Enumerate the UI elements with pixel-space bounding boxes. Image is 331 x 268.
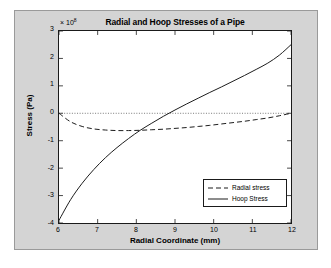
y-axis-label: Stress (Pa) (25, 71, 34, 161)
x-tick-label: 12 (285, 226, 299, 233)
x-tick-label: 11 (246, 226, 260, 233)
plot-area: Radial stress Hoop Stress (58, 30, 292, 224)
legend-swatch-dashed (207, 184, 229, 192)
x-axis-label: Radial Coordinate (mm) (58, 236, 292, 245)
legend[interactable]: Radial stress Hoop Stress (203, 179, 287, 207)
y-tick-label: -1 (40, 136, 54, 143)
figure-window: × 108 Radial and Hoop Stresses of a Pipe… (14, 10, 318, 250)
legend-label-hoop-stress: Hoop Stress (232, 195, 268, 202)
chart-title: Radial and Hoop Stresses of a Pipe (58, 17, 292, 27)
x-tick-label: 10 (207, 226, 221, 233)
y-tick-label: -2 (40, 164, 54, 171)
y-tick-label: -3 (40, 191, 54, 198)
legend-item-hoop-stress[interactable]: Hoop Stress (207, 193, 283, 204)
x-tick-label: 6 (51, 226, 65, 233)
x-tick-label: 9 (168, 226, 182, 233)
y-tick-label: 0 (40, 108, 54, 115)
x-tick-label: 7 (90, 226, 104, 233)
y-tick-label: 2 (40, 53, 54, 60)
legend-swatch-solid (207, 195, 229, 203)
y-tick-label: -4 (40, 219, 54, 226)
legend-item-radial-stress[interactable]: Radial stress (207, 182, 283, 193)
legend-label-radial-stress: Radial stress (232, 184, 270, 191)
y-tick-label: 1 (40, 80, 54, 87)
y-tick-label: 3 (40, 25, 54, 32)
series-line-radial-stress (59, 113, 291, 130)
x-tick-label: 8 (129, 226, 143, 233)
